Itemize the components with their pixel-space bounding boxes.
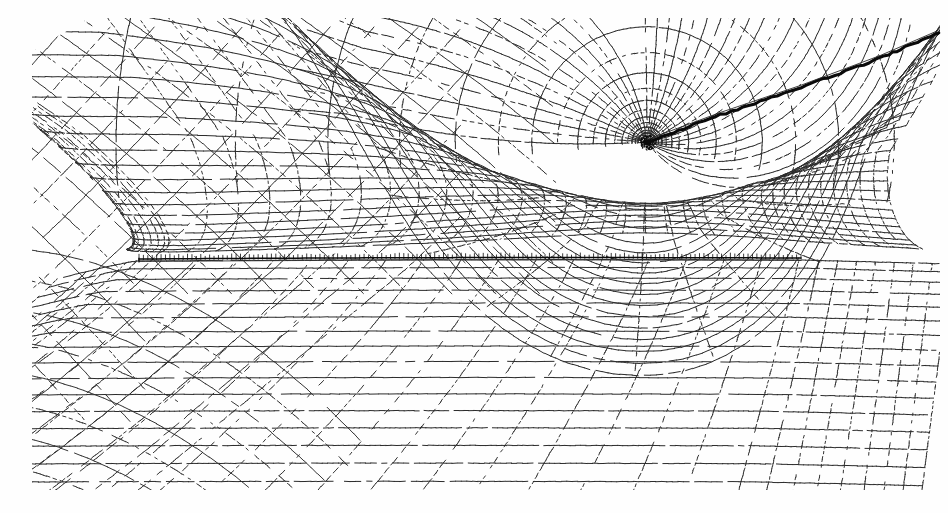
- figure-root: Body-fitted computational mesh about a s…: [0, 0, 948, 513]
- cfd-mesh-plot: [0, 0, 948, 513]
